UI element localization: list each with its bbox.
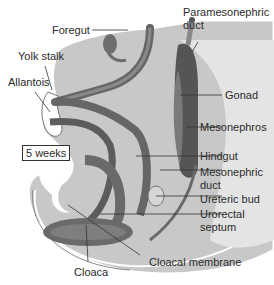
label-ureteric-bud: Ureteric bud	[200, 193, 260, 205]
label-urorectal-septum-line2: septum	[200, 221, 236, 233]
label-allantois: Allantois	[8, 76, 50, 88]
label-mesonephros: Mesonephros	[200, 121, 267, 133]
stage-label-box: 5 weeks	[22, 145, 70, 161]
label-mesonephric-duct-line2: duct	[200, 179, 221, 191]
embryo-illustration	[0, 0, 274, 285]
label-cloacal-membrane: Cloacal membrane	[149, 256, 241, 268]
label-paramesonephric-duct-line2: duct	[183, 19, 204, 31]
label-urorectal-septum-line1: Urorectal	[200, 208, 245, 220]
label-paramesonephric-duct-line1: Paramesonephric	[183, 6, 269, 18]
label-yolk-stalk: Yolk stalk	[18, 50, 64, 62]
label-mesonephric-duct-line1: Mesonephric	[200, 166, 263, 178]
label-cloaca: Cloaca	[74, 266, 108, 278]
label-foregut: Foregut	[52, 24, 90, 36]
label-gonad: Gonad	[225, 89, 258, 101]
label-hindgut: Hindgut	[200, 150, 238, 162]
